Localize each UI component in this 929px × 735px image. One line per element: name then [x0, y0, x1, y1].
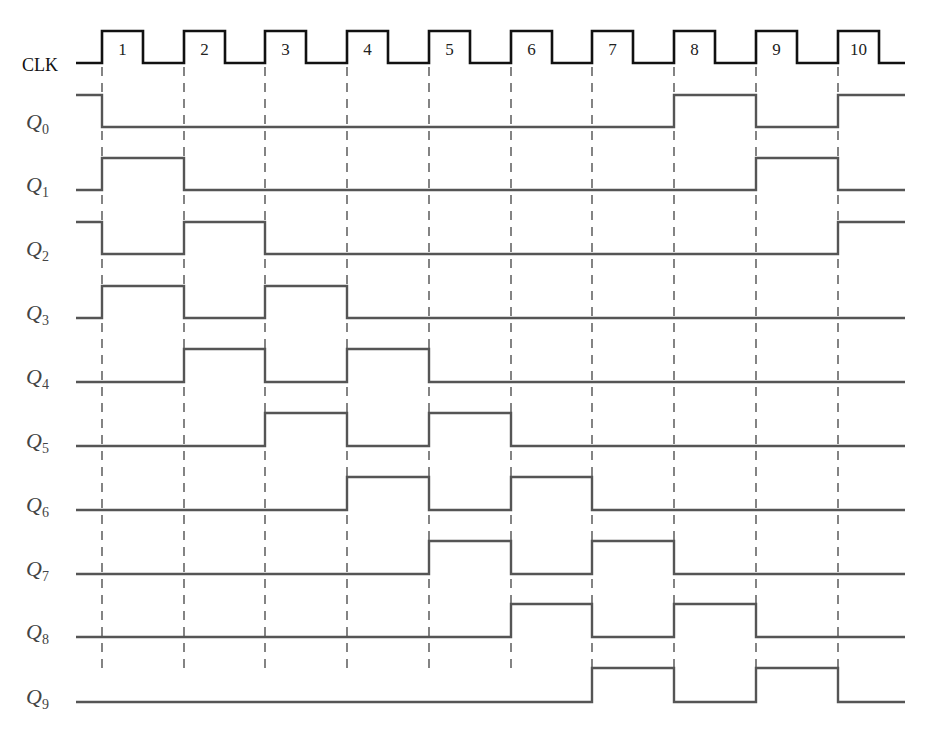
- signal-row-q8: Q8: [26, 604, 905, 647]
- pulse-number: 4: [363, 40, 372, 59]
- signal-row-q4: Q4: [26, 349, 905, 392]
- signal-trace: [76, 604, 905, 637]
- signal-trace: [76, 158, 905, 190]
- timing-diagram: CLK 12345678910 Q0Q1Q2Q3Q4Q5Q6Q7Q8Q9: [0, 0, 929, 735]
- signal-row-q9: Q9: [26, 668, 905, 712]
- signal-trace: [76, 95, 905, 127]
- signal-row-q0: Q0: [26, 95, 905, 137]
- signal-row-q1: Q1: [26, 158, 905, 200]
- signal-label: Q5: [26, 428, 49, 456]
- signal-row-q7: Q7: [26, 541, 905, 584]
- pulse-number: 9: [772, 40, 781, 59]
- signal-label: Q7: [26, 556, 49, 584]
- signal-label: Q6: [26, 492, 49, 520]
- signal-label: Q0: [26, 109, 49, 137]
- clock-edge-guides: [102, 67, 838, 668]
- signal-trace: [76, 349, 905, 382]
- signal-trace: [76, 222, 905, 254]
- signal-trace: [76, 286, 905, 318]
- clock-label: CLK: [22, 55, 58, 75]
- clock-waveform: CLK 12345678910: [22, 31, 905, 75]
- signal-label: Q4: [26, 364, 49, 392]
- signal-trace: [76, 477, 905, 510]
- signal-row-q3: Q3: [26, 286, 905, 328]
- pulse-number: 8: [690, 40, 699, 59]
- signal-trace: [76, 541, 905, 574]
- signal-label: Q2: [26, 236, 49, 264]
- signal-trace: [76, 668, 905, 702]
- pulse-number: 2: [200, 40, 209, 59]
- pulse-number: 5: [445, 40, 454, 59]
- signal-row-q6: Q6: [26, 477, 905, 520]
- signal-label: Q9: [26, 684, 49, 712]
- signal-row-q2: Q2: [26, 222, 905, 264]
- signal-trace: [76, 413, 905, 446]
- signal-label: Q3: [26, 300, 49, 328]
- signal-waveforms: Q0Q1Q2Q3Q4Q5Q6Q7Q8Q9: [26, 95, 905, 712]
- signal-label: Q1: [26, 172, 49, 200]
- pulse-number: 1: [118, 40, 127, 59]
- pulse-number: 3: [281, 40, 290, 59]
- clock-pulse-numbers: 12345678910: [118, 40, 867, 59]
- pulse-number: 7: [608, 40, 617, 59]
- signal-row-q5: Q5: [26, 413, 905, 456]
- pulse-number: 10: [850, 40, 867, 59]
- pulse-number: 6: [527, 40, 536, 59]
- signal-label: Q8: [26, 619, 49, 647]
